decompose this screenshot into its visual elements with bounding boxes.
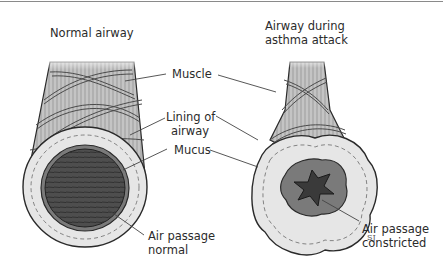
asthma-airway-title-line2: asthma attack — [265, 33, 348, 47]
label-lining-line1: Lining of — [166, 110, 214, 124]
normal-airway — [23, 56, 147, 247]
asthma-airway-title-line1: Airway during — [265, 19, 345, 33]
label-air-passage-constricted-line2: constricted — [362, 236, 426, 250]
label-air-passage-normal-line1: Air passage — [148, 229, 215, 243]
label-air-passage-constricted-line1: Air passage — [362, 222, 429, 236]
asthma-airway: SJ — [252, 56, 377, 255]
normal-airway-title: Normal airway — [50, 26, 134, 40]
label-muscle: Muscle — [172, 67, 212, 81]
label-lining-line2: airway — [166, 124, 214, 138]
label-mucus: Mucus — [174, 143, 211, 157]
label-air-passage-normal-line2: normal — [148, 243, 188, 257]
